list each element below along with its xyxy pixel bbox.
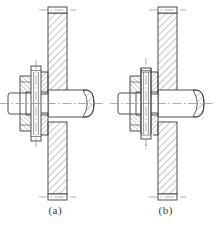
caption-view-a: (a) <box>0 200 111 226</box>
figure-captions: (a) (b) <box>0 200 221 226</box>
engineering-drawing: (a) (b) <box>0 0 221 230</box>
caption-view-b: (b) <box>111 200 222 226</box>
drawing-canvas <box>0 0 221 230</box>
